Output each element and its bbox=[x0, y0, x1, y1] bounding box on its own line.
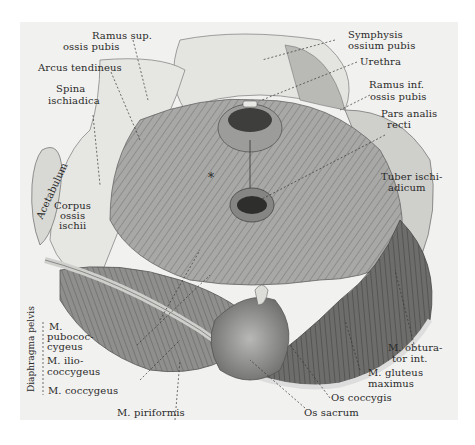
label-tuber-ischiadicum: Tuber ischi- bbox=[381, 172, 443, 182]
label-m-coccygeus: M. coccygeus bbox=[48, 386, 118, 396]
label-arcus-tendineus: Arcus tendineus bbox=[38, 63, 122, 73]
label-m-iliococcygeus: M. ilio- bbox=[47, 356, 83, 366]
label-spina-ischiadica-2: ischiadica bbox=[48, 96, 100, 106]
label-ramus-sup-2: ossis pubis bbox=[63, 42, 119, 52]
label-corpus-3: ischii bbox=[59, 221, 86, 231]
label-m-obturator-int: M. obtura- bbox=[388, 343, 443, 353]
asterisk-marker: * bbox=[208, 171, 214, 185]
label-symphysis-2: ossium pubis bbox=[348, 41, 415, 51]
label-ramus-inf-2: ossis pubis bbox=[370, 92, 426, 102]
urethral-meatus bbox=[243, 101, 257, 107]
label-pars-analis-2: recti bbox=[387, 120, 411, 130]
anal-opening bbox=[237, 196, 267, 214]
label-ramus-inf: Ramus inf. bbox=[369, 80, 424, 90]
label-spina-ischiadica: Spina bbox=[56, 84, 85, 94]
label-m-gluteus-maximus-2: maximus bbox=[368, 379, 414, 389]
label-os-sacrum: Os sacrum bbox=[304, 408, 359, 418]
label-pars-analis: Pars analis bbox=[381, 109, 437, 119]
label-diaphragma-pelvis: Diaphragma pelvis bbox=[26, 306, 36, 392]
label-m-obturator-int-2: tor int. bbox=[392, 354, 428, 364]
label-m-pubococcygeus-3: cygeus bbox=[47, 342, 83, 352]
label-urethra: Urethra bbox=[360, 57, 401, 67]
label-ramus-sup: Ramus sup. bbox=[92, 31, 152, 41]
label-os-coccygis: Os coccygis bbox=[331, 393, 392, 403]
label-tuber-ischiadicum-2: adicum bbox=[388, 183, 426, 193]
label-m-iliococcygeus-2: coccygeus bbox=[47, 367, 100, 377]
label-m-piriformis: M. piriformis bbox=[117, 408, 185, 418]
urethra-opening bbox=[228, 108, 272, 132]
label-m-gluteus-maximus: M. gluteus bbox=[368, 368, 423, 378]
label-symphysis: Symphysis bbox=[348, 30, 403, 40]
